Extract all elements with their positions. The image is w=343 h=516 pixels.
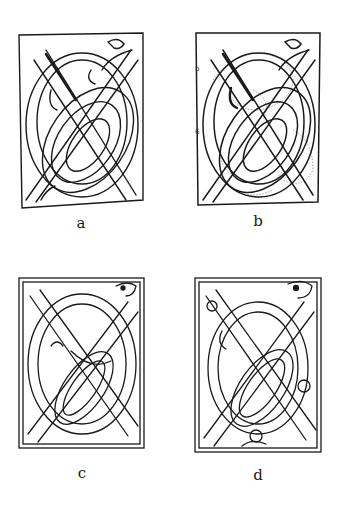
panel-b: b 6 (193, 30, 325, 212)
knotwork-interlace-d (192, 276, 324, 458)
panel-label-a: a (71, 214, 91, 232)
knotwork-sketch-a (16, 30, 148, 212)
panel-label-b: b (248, 212, 268, 230)
side-label-b: b (195, 65, 199, 73)
panel-c (16, 276, 148, 454)
panel-label-d: d (248, 466, 268, 484)
panel-d (192, 276, 324, 458)
panel-label-c: c (72, 464, 92, 482)
knotwork-interlace-c (16, 276, 148, 454)
knotwork-sketch-b (193, 30, 325, 212)
panel-a (16, 30, 148, 212)
side-label-6: 6 (195, 128, 199, 136)
